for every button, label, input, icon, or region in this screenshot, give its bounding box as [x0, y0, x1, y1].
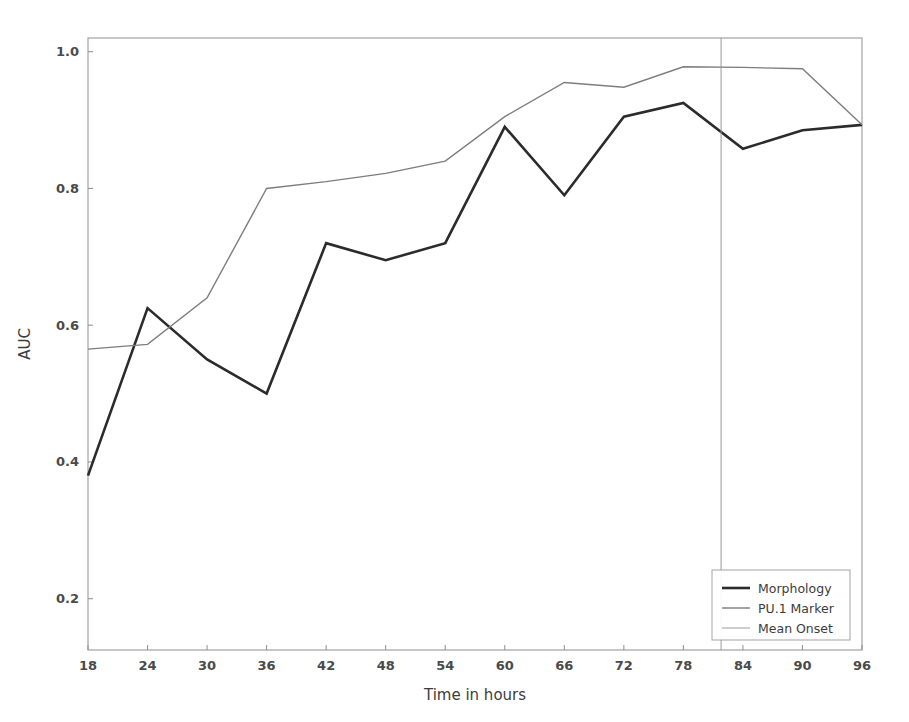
- x-tick-label-66: 66: [555, 658, 573, 673]
- y-tick-label-0.4: 0.4: [56, 454, 79, 469]
- y-tick-label-0.8: 0.8: [56, 181, 79, 196]
- legend-label-pu-1-marker: PU.1 Marker: [758, 601, 835, 616]
- x-tick-label-72: 72: [615, 658, 633, 673]
- x-tick-label-30: 30: [198, 658, 216, 673]
- series-line-morphology: [88, 103, 862, 476]
- chart-legend: MorphologyPU.1 MarkerMean Onset: [712, 570, 850, 640]
- data-series-group: [88, 38, 862, 650]
- x-tick-label-18: 18: [79, 658, 97, 673]
- y-tick-label-1.0: 1.0: [56, 44, 79, 59]
- x-tick-label-78: 78: [674, 658, 692, 673]
- series-line-pu-1-marker: [88, 67, 862, 349]
- x-tick-label-48: 48: [377, 658, 395, 673]
- y-tick-label-0.2: 0.2: [56, 591, 79, 606]
- y-axis-tick-labels: 0.20.40.60.81.0: [56, 44, 79, 606]
- x-tick-label-36: 36: [258, 658, 276, 673]
- line-chart-plot: 1824303642485460667278849096 0.20.40.60.…: [0, 0, 909, 722]
- chart-figure: 1824303642485460667278849096 0.20.40.60.…: [0, 0, 909, 722]
- x-tick-label-24: 24: [138, 658, 156, 673]
- y-axis-ticks: [88, 52, 93, 599]
- y-axis-title: AUC: [16, 328, 34, 360]
- x-tick-label-42: 42: [317, 658, 335, 673]
- x-tick-label-90: 90: [793, 658, 811, 673]
- x-axis-title: Time in hours: [423, 686, 526, 704]
- x-tick-label-96: 96: [853, 658, 871, 673]
- x-axis-tick-labels: 1824303642485460667278849096: [79, 658, 871, 673]
- x-axis-ticks: [88, 645, 862, 650]
- x-tick-label-84: 84: [734, 658, 752, 673]
- axes-frame: [88, 38, 862, 650]
- y-tick-label-0.6: 0.6: [56, 318, 79, 333]
- x-tick-label-54: 54: [436, 658, 454, 673]
- legend-label-morphology: Morphology: [758, 581, 832, 596]
- legend-label-mean-onset: Mean Onset: [758, 621, 833, 636]
- x-tick-label-60: 60: [496, 658, 514, 673]
